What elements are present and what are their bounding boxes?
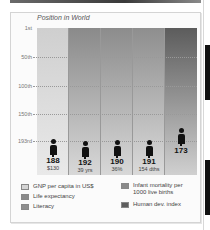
rank-value: 173: [165, 146, 197, 155]
legend-item-infant-mortality: Infant mortality per 1000 live births: [121, 182, 193, 196]
y-tick-label: 100th: [8, 83, 32, 89]
y-tick-label: 1st: [8, 25, 32, 31]
rank-value: 190: [101, 157, 133, 166]
rank-value: 191: [133, 157, 165, 166]
person-icon: [49, 139, 57, 155]
metric-value: 36%: [101, 166, 133, 172]
adjacent-panel-edge: [205, 45, 210, 100]
person-icon: [113, 140, 121, 156]
metric-value: 154 dths: [133, 166, 165, 172]
metric-value: 39 yrs: [69, 167, 101, 173]
gridline-100th: [33, 86, 197, 87]
chart-title: Position in World: [37, 14, 90, 21]
legend-swatch: [21, 204, 29, 210]
page-edge-line: [203, 0, 204, 230]
legend-item-life-expectancy: Life expectancy: [21, 193, 75, 200]
person-icon: [81, 141, 89, 157]
gridline-50th: [33, 57, 197, 58]
legend-swatch: [121, 183, 129, 189]
legend-swatch: [21, 184, 29, 190]
metric-value: $130: [37, 165, 69, 171]
y-tick-label: 150th: [8, 111, 32, 117]
legend-label: Human dev. index: [133, 201, 181, 208]
rank-value: 192: [69, 158, 101, 167]
y-tick-label: 193rd: [8, 138, 32, 144]
legend-item-literacy: Literacy: [21, 203, 54, 210]
gridline-150th: [33, 114, 197, 115]
y-tick-label: 50th: [8, 54, 32, 60]
legend-item-human-dev-index: Human dev. index: [121, 201, 181, 208]
legend-item-gnp: GNP per capita in US$: [21, 183, 94, 190]
top-border-bar: [10, 0, 201, 3]
rank-value: 188: [37, 156, 69, 165]
legend-swatch: [121, 202, 129, 208]
adjacent-panel-edge: [205, 160, 210, 215]
legend-label: Literacy: [33, 203, 54, 210]
legend-label: GNP per capita in US$: [33, 183, 94, 190]
legend-swatch: [21, 194, 29, 200]
legend-label: Life expectancy: [33, 193, 75, 200]
person-icon: [145, 140, 153, 156]
person-icon: [177, 128, 185, 144]
legend-label: Infant mortality per 1000 live births: [133, 182, 193, 196]
